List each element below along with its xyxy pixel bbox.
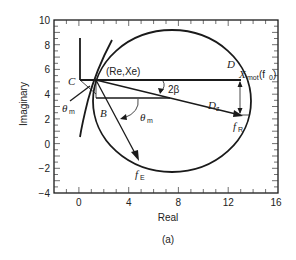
y-tick: −2	[39, 163, 51, 174]
theta-m-left-pointer	[70, 86, 90, 101]
svg-text:m: m	[147, 117, 153, 124]
y-axis-label: Imaginary	[18, 82, 29, 126]
impedance-diagram: 10 8 6 4 2 0 −2 −4 0 4 8 12 16 Real Imag…	[0, 0, 296, 260]
theta-m-arrowhead	[120, 114, 127, 120]
y-tick: 10	[39, 15, 51, 26]
x-ticks	[66, 20, 265, 193]
x-tick: 0	[76, 197, 82, 208]
label-fr: f R	[233, 120, 243, 133]
x-tick: 8	[176, 197, 182, 208]
y-tick: 6	[44, 64, 50, 75]
label-b: B	[100, 107, 107, 119]
svg-text:θ: θ	[62, 102, 68, 114]
dim-arrow-up	[238, 81, 243, 87]
y-tick: 8	[44, 40, 50, 51]
label-fe: f E	[135, 168, 145, 181]
fe-arrowhead	[131, 150, 139, 161]
y-tick: 4	[44, 89, 50, 100]
label-c: C	[68, 75, 76, 87]
plot-frame	[54, 20, 278, 193]
x-tick-labels: 0 4 8 12 16	[76, 197, 282, 208]
y-tick: −4	[39, 188, 51, 199]
label-two-beta: 2β	[168, 84, 180, 95]
y-tick: 2	[44, 114, 50, 125]
svg-text:(f: (f	[259, 69, 265, 80]
label-d: D	[226, 58, 235, 70]
x-tick: 4	[126, 197, 132, 208]
y-tick: 0	[44, 139, 50, 150]
two-beta-arrowhead	[158, 88, 164, 94]
x-tick: 16	[270, 197, 282, 208]
svg-text:E: E	[140, 174, 145, 181]
figure-caption: (a)	[162, 234, 174, 245]
impedance-circle	[93, 30, 251, 172]
y-tick-labels: 10 8 6 4 2 0 −2 −4	[39, 15, 51, 199]
svg-text:R: R	[238, 126, 243, 133]
label-x-mot: X mot (f 0 )	[238, 68, 276, 81]
svg-text:mot: mot	[247, 74, 259, 81]
svg-text:z: z	[216, 105, 220, 112]
label-re-xe: (Re,Xe)	[106, 66, 140, 77]
label-theta-m-left: θ m	[62, 102, 75, 115]
label-dz: D z	[207, 99, 220, 112]
svg-text:X: X	[238, 68, 247, 80]
label-theta-m-right: θ m	[140, 111, 153, 124]
svg-text:): )	[273, 69, 276, 80]
y-ticks	[54, 26, 278, 187]
svg-text:θ: θ	[140, 111, 146, 123]
x-tick: 12	[223, 197, 235, 208]
svg-text:m: m	[69, 108, 75, 115]
svg-text:D: D	[207, 99, 216, 111]
x-axis-label: Real	[158, 212, 179, 223]
dz-arrowhead	[233, 110, 243, 117]
